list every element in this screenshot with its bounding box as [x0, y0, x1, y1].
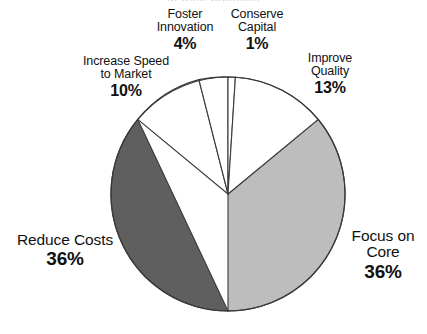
label-increase-speed-to-market-line1: Increase Speed — [72, 55, 180, 68]
label-increase-speed-to-market-line2: to Market — [72, 68, 180, 81]
label-improve-quality-line2: Quality — [288, 65, 372, 78]
label-conserve-capital-line2: Capital — [218, 21, 296, 34]
label-focus-on-core-line1: Focus on — [340, 228, 426, 244]
label-improve-quality: Improve Quality 13% — [288, 52, 372, 96]
label-foster-innovation-value: 4% — [148, 36, 222, 53]
pie-chart: of their priorities Foster Innovation 4%… — [0, 0, 427, 334]
label-increase-speed-to-market-value: 10% — [72, 83, 180, 100]
label-foster-innovation-line1: Foster — [148, 8, 222, 21]
label-foster-innovation-line2: Innovation — [148, 21, 222, 34]
label-conserve-capital: Conserve Capital 1% — [218, 8, 296, 52]
label-reduce-costs-value: 36% — [6, 249, 124, 269]
label-focus-on-core-value: 36% — [340, 262, 426, 282]
label-focus-on-core-line2: Core — [340, 244, 426, 260]
label-improve-quality-value: 13% — [288, 80, 372, 97]
label-conserve-capital-value: 1% — [218, 36, 296, 53]
label-foster-innovation: Foster Innovation 4% — [148, 8, 222, 52]
label-conserve-capital-line1: Conserve — [218, 8, 296, 21]
label-reduce-costs-line1: Reduce Costs — [6, 232, 124, 248]
label-focus-on-core: Focus on Core 36% — [340, 228, 426, 282]
label-reduce-costs: Reduce Costs 36% — [6, 232, 124, 270]
label-increase-speed-to-market: Increase Speed to Market 10% — [72, 55, 180, 99]
label-improve-quality-line1: Improve — [288, 52, 372, 65]
